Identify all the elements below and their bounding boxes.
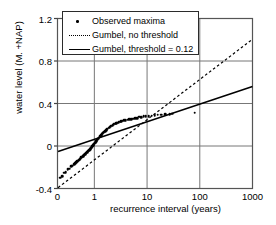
data-point (164, 113, 167, 116)
data-point (157, 114, 160, 117)
legend-label: Gumbel, threshold = 0.12 (92, 43, 193, 55)
chart-root: water level (M. +NAP) recurrence interva… (0, 0, 276, 225)
solid-line-marker-icon (67, 43, 92, 55)
legend-item-gumbel-no-threshold: Gumbel, no threshold (67, 28, 195, 42)
legend: Observed maxima Gumbel, no threshold Gum… (62, 11, 199, 55)
legend-label: Gumbel, no threshold (92, 29, 178, 41)
legend-label: Observed maxima (92, 15, 165, 27)
data-point (68, 168, 71, 171)
legend-item-observed-maxima: Observed maxima (67, 14, 195, 28)
data-point (171, 112, 174, 115)
data-point (193, 112, 196, 115)
dashed-line-marker-icon (67, 29, 92, 41)
dot-marker-icon (67, 15, 92, 27)
data-point (64, 171, 67, 174)
data-point (61, 175, 64, 178)
legend-item-gumbel-threshold: Gumbel, threshold = 0.12 (67, 42, 195, 56)
gumbel-threshold-line (58, 87, 252, 152)
data-point (160, 113, 163, 116)
